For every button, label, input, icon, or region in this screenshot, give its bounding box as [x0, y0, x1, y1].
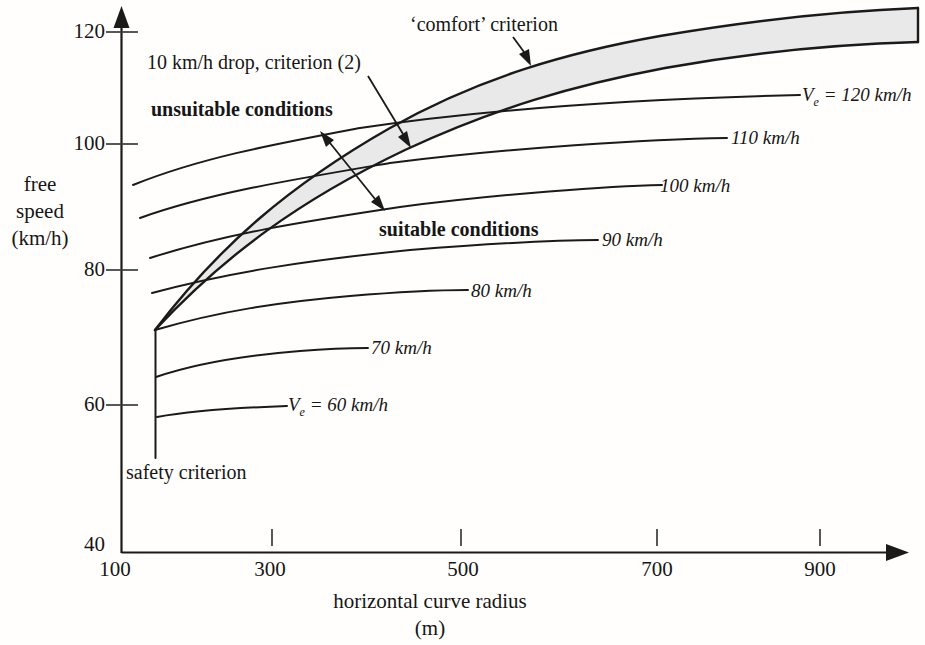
ve-value: = 120 km/h — [819, 84, 912, 105]
comfort-criterion-label: ‘comfort’ criterion — [410, 13, 558, 36]
y-axis-title-line3: (km/h) — [0, 226, 80, 250]
x-axis-arrow-icon — [886, 544, 909, 561]
curve-label-70: 70 km/h — [371, 337, 432, 359]
y-tick-label-100: 100 — [45, 131, 105, 155]
curve-ve-110 — [140, 138, 727, 218]
suitable-conditions-label: suitable conditions — [379, 218, 538, 241]
ve-var: V — [288, 394, 300, 415]
curve-ve-60 — [157, 406, 287, 417]
x-tick-label-900: 900 — [785, 557, 855, 581]
ve-value: = 60 km/h — [305, 394, 388, 415]
curve-ve-80 — [155, 290, 468, 330]
x-tick-label-500: 500 — [428, 557, 498, 581]
drop-criterion-label: 10 km/h drop, criterion (2) — [147, 51, 361, 74]
x-axis-title: horizontal curve radius — [290, 589, 570, 613]
chart-canvas — [0, 0, 925, 645]
y-tick-label-40: 40 — [45, 532, 105, 556]
x-axis-unit: (m) — [290, 616, 570, 640]
safety-criterion-label: safety criterion — [126, 461, 247, 484]
comfort-criterion-arrow — [513, 37, 531, 66]
y-axis-title-line2: speed — [0, 199, 80, 223]
curve-label-110: 110 km/h — [731, 127, 800, 149]
unsuitable-conditions-label: unsuitable conditions — [151, 98, 333, 121]
x-tick-label-300: 300 — [235, 557, 305, 581]
curve-label-80: 80 km/h — [471, 280, 532, 302]
ve-var: V — [802, 84, 814, 105]
curve-label-ve-120: Ve = 120 km/h — [802, 84, 911, 110]
curve-label-100: 100 km/h — [660, 175, 730, 197]
y-tick-label-60: 60 — [45, 392, 105, 416]
curve-label-90: 90 km/h — [602, 229, 663, 251]
y-tick-label-80: 80 — [45, 257, 105, 281]
y-axis-arrow-icon — [114, 6, 130, 28]
curve-ve-70 — [156, 348, 368, 377]
speed-vs-curve-radius-figure: 120 100 80 60 40 free speed (km/h) 100 3… — [0, 0, 925, 645]
x-tick-label-700: 700 — [622, 557, 692, 581]
y-axis-title-line1: free — [0, 172, 80, 196]
curve-label-ve-60: Ve = 60 km/h — [288, 394, 388, 420]
x-tick-label-100: 100 — [80, 557, 150, 581]
y-tick-label-120: 120 — [45, 19, 105, 43]
